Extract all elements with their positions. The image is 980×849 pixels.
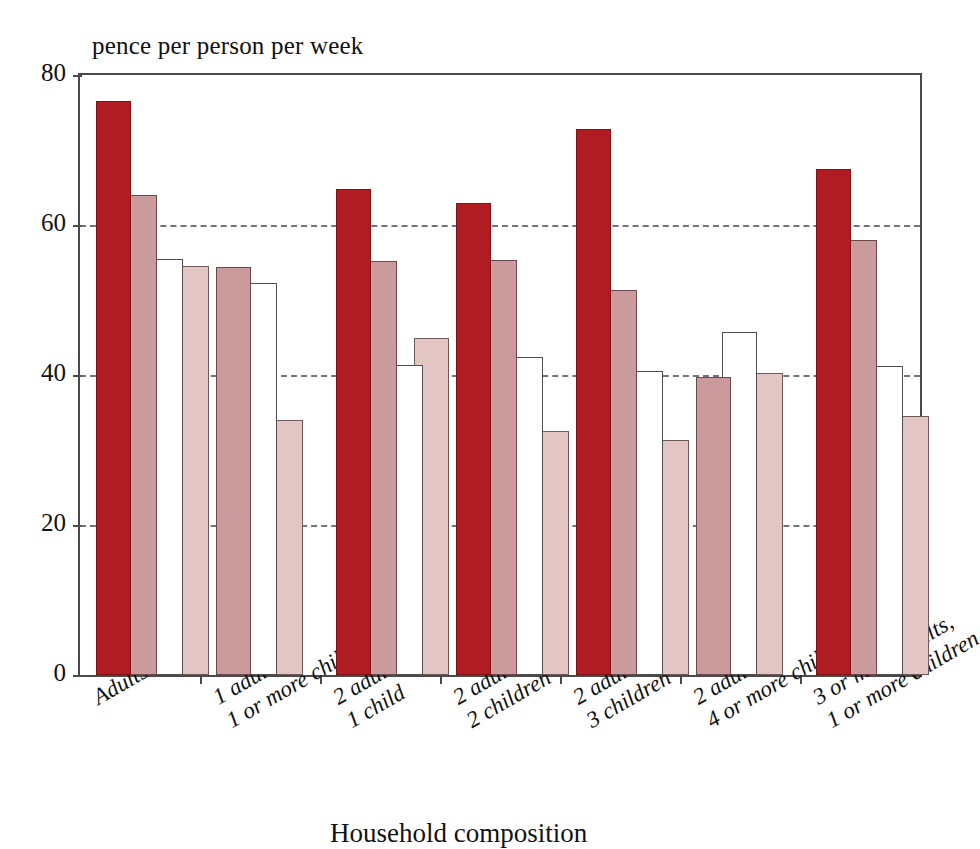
y-axis: 020406080 — [18, 73, 74, 673]
x-axis-tick-mark — [200, 675, 202, 684]
bar — [816, 169, 851, 675]
bar-group — [680, 75, 800, 675]
bar — [456, 203, 491, 676]
bar-group — [440, 75, 560, 675]
bar — [96, 101, 131, 675]
y-axis-tick-label: 40 — [28, 359, 74, 387]
x-axis-tick-mark — [560, 675, 562, 684]
plot-area — [78, 73, 922, 677]
bar — [336, 189, 371, 675]
bar-group — [800, 75, 920, 675]
x-axis-title: Household composition — [330, 818, 587, 849]
bar — [576, 129, 611, 675]
y-axis-tick-label: 0 — [28, 659, 74, 687]
bar-group — [560, 75, 680, 675]
y-axis-tick-mark — [73, 675, 82, 677]
chart-title: pence per person per week — [92, 32, 364, 60]
bar-group — [80, 75, 200, 675]
x-axis-tick-mark — [440, 675, 442, 684]
y-axis-tick-label: 80 — [28, 59, 74, 87]
y-axis-tick-label: 20 — [28, 509, 74, 537]
bar-group — [200, 75, 320, 675]
y-axis-tick-label: 60 — [28, 209, 74, 237]
bar — [216, 267, 251, 675]
x-axis-tick-mark — [680, 675, 682, 684]
bar-group — [320, 75, 440, 675]
bar — [696, 377, 731, 675]
